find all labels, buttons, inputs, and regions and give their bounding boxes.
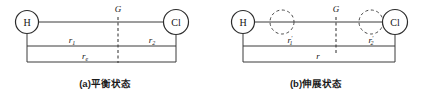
caption-panel-a: (a)平衡状态: [0, 76, 210, 90]
atom-h-b-label: H: [239, 17, 246, 28]
atom-cl-b-label: Cl: [390, 17, 400, 28]
measure-label-r-b: r: [316, 51, 320, 61]
measure-label-r2-a: r2: [149, 35, 156, 46]
measure-label-r1-prime-b: r′1: [288, 35, 294, 47]
atom-h-b: H: [232, 11, 255, 34]
com-label-a: G: [115, 4, 122, 14]
atom-h-a-label: H: [23, 17, 30, 28]
caption-panel-b: (b)伸展状态: [211, 76, 421, 90]
measure-label-r1-a: r1: [69, 35, 76, 46]
measure-label-r0-a: re: [82, 51, 89, 62]
panel-b: H Cl G r′1 r′2 r: [232, 4, 408, 62]
atom-cl-a-label: Cl: [171, 17, 181, 28]
atom-cl-b: Cl: [383, 10, 408, 35]
atom-cl-a: Cl: [164, 10, 189, 35]
com-label-b: G: [333, 4, 340, 14]
atom-h-a: H: [16, 11, 39, 34]
panel-a: H Cl G r1 r2 re: [16, 4, 189, 63]
measure-label-r2-prime-b: r′2: [369, 35, 375, 47]
